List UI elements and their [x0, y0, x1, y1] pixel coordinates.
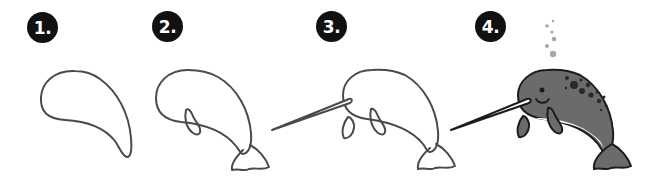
bubble-icon — [545, 24, 549, 28]
bubble-icon — [552, 20, 555, 23]
bubbles — [545, 20, 556, 58]
step-3-front-flipper — [343, 117, 355, 138]
step-3-narwhal-outline — [272, 70, 455, 169]
bubble-icon — [552, 37, 557, 42]
step-3-tusk — [272, 99, 352, 130]
drawing-canvas — [0, 0, 662, 183]
narwhal-eye — [540, 88, 545, 93]
step-2-body-with-fins — [156, 70, 269, 170]
narwhal-drawing-tutorial: 1. 2. 3. 4. — [0, 0, 662, 183]
step-4-narwhal-colored — [451, 20, 631, 169]
step-1-body-outline — [41, 71, 131, 157]
narwhal-body — [518, 70, 613, 152]
narwhal-front-flipper — [518, 116, 530, 137]
bubble-icon — [545, 44, 549, 48]
bubble-icon — [550, 30, 553, 33]
bubble-icon — [550, 51, 556, 57]
